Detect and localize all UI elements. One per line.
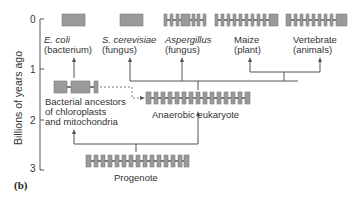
gene-maize: [215, 14, 278, 26]
gene-ecoli: [62, 14, 85, 26]
evolution-diagram: 0 1 2 3 Billions of years ago (b): [0, 0, 363, 203]
label-ecoli-sub: (bacterium): [44, 44, 92, 55]
label-maize-sub: (plant): [234, 44, 261, 55]
gene-scerevisiae: [120, 14, 143, 26]
tick-1: 1: [30, 64, 36, 75]
panel-label: (b): [14, 179, 28, 192]
label-bacterial-ancestors-3: and mitochondria: [45, 116, 119, 127]
gene-anaerobic-eukaryote: [146, 92, 250, 104]
label-vertebrate-sub: (animals): [293, 44, 332, 55]
gene-progenote: [86, 155, 189, 167]
gene-vertebrate: [286, 14, 347, 26]
label-scerevisiae-sub: (fungus): [102, 44, 137, 55]
tick-3: 3: [30, 163, 36, 174]
gene-bacterial-ancestor: [54, 81, 98, 93]
label-aspergillus-sub: (fungus): [165, 44, 200, 55]
label-progenote: Progenote: [114, 172, 158, 183]
gene-aspergillus: [164, 14, 206, 26]
time-axis: 0 1 2 3 Billions of years ago: [12, 14, 44, 174]
label-anaerobic-eukaryote: Anaerobic eukaryote: [152, 109, 239, 120]
tick-0: 0: [30, 14, 36, 25]
axis-label: Billions of years ago: [12, 51, 24, 145]
tick-2: 2: [30, 115, 36, 126]
